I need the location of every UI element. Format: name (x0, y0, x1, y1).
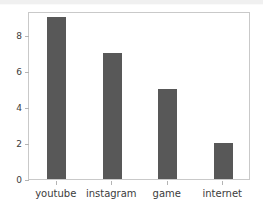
bar-game (158, 89, 177, 179)
y-tick-label-4: 4 (8, 104, 22, 113)
y-tick-mark (25, 108, 29, 109)
y-tick-label-2: 2 (8, 140, 22, 149)
y-tick-label-6: 6 (8, 68, 22, 77)
x-axis-tick-labels: youtubeinstagramgameinternet (28, 188, 250, 204)
plot-frame (28, 12, 250, 180)
x-tick-label-instagram: instagram (86, 188, 137, 200)
x-tick-mark (111, 181, 112, 185)
y-tick-mark (25, 36, 29, 37)
bar-instagram (103, 53, 122, 179)
chart-screenshot: 02468 youtubeinstagramgameinternet (0, 0, 263, 213)
y-tick-mark (25, 144, 29, 145)
y-tick-mark (25, 72, 29, 73)
y-axis-tick-marks (24, 12, 29, 180)
top-strip-edge (0, 4, 263, 5)
y-tick-label-8: 8 (8, 32, 22, 41)
bar-internet (214, 143, 233, 179)
x-tick-mark (167, 181, 168, 185)
y-axis-tick-labels: 02468 (6, 12, 22, 180)
x-tick-mark (222, 181, 223, 185)
x-axis-tick-marks (28, 181, 250, 186)
x-tick-mark (56, 181, 57, 185)
x-tick-label-game: game (153, 188, 181, 200)
plot-surface (29, 13, 249, 179)
x-tick-label-internet: internet (202, 188, 242, 200)
x-tick-label-youtube: youtube (35, 188, 76, 200)
bar-youtube (47, 17, 66, 179)
y-tick-label-0: 0 (8, 176, 22, 185)
